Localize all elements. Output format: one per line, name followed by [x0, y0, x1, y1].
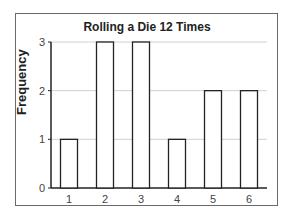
x-tick-label: 5	[210, 193, 216, 205]
y-tick-label: 2	[39, 85, 45, 97]
x-tick-label: 3	[138, 193, 144, 205]
y-tick-label: 3	[39, 36, 45, 48]
plot-area: 0123123456	[0, 0, 286, 220]
bar-4	[169, 139, 186, 188]
x-tick-label: 2	[102, 193, 108, 205]
bar-1	[61, 139, 78, 188]
y-tick-label: 1	[39, 133, 45, 145]
bar-3	[133, 42, 150, 188]
x-tick-label: 1	[66, 193, 72, 205]
x-tick-label: 6	[246, 193, 252, 205]
bar-5	[205, 91, 222, 188]
y-tick-label: 0	[39, 182, 45, 194]
bar-6	[241, 91, 258, 188]
bar-2	[97, 42, 114, 188]
x-tick-label: 4	[174, 193, 180, 205]
